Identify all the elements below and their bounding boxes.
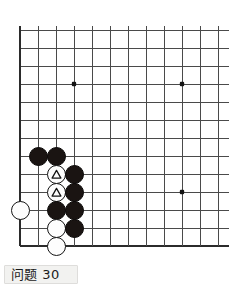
white-stone-w5[interactable] [47,237,66,256]
go-problem-diagram: 问题 30 [0,0,231,285]
black-stone-b5[interactable] [47,201,66,220]
black-stone-b6[interactable] [65,201,84,220]
problem-label-box[interactable]: 问题 30 [4,265,78,284]
white-stone-w3[interactable] [11,201,30,220]
white-stone-marked-w2[interactable] [47,183,66,202]
black-stone-b1[interactable] [29,147,48,166]
triangle-mark-icon [48,184,65,201]
white-stone-marked-w1[interactable] [47,165,66,184]
black-stone-b3[interactable] [65,165,84,184]
problem-label-text: 问题 30 [11,268,60,281]
black-stone-b2[interactable] [47,147,66,166]
go-board[interactable] [0,0,231,258]
go-stones-layer [0,0,231,258]
black-stone-b4[interactable] [65,183,84,202]
caption-bar: 问题 30 [0,258,231,285]
white-stone-w4[interactable] [47,219,66,238]
triangle-mark-icon [48,166,65,183]
black-stone-b7[interactable] [65,219,84,238]
